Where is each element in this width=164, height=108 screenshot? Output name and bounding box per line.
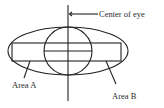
- area-b-label: Area B: [112, 92, 136, 101]
- area-a-label: Area A: [12, 81, 36, 90]
- area-b-pointer-line: [106, 61, 116, 84]
- measurement-rectangle: [12, 43, 121, 61]
- center-of-eye-label: Center of eye: [99, 10, 145, 19]
